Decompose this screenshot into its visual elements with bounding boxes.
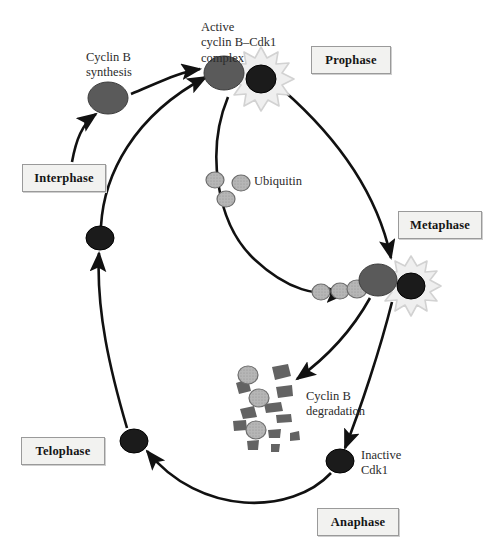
phase-box-metaphase[interactable]: Metaphase (398, 211, 482, 239)
arrow-inactive-cdk1-to-telophase (147, 451, 331, 503)
arrow-telophase-to-interphase (99, 253, 127, 428)
phase-box-telophase[interactable]: Telophase (21, 437, 105, 465)
diagram-canvas (0, 0, 488, 558)
label-cyclin-b-degradation: Cyclin B degradation (306, 389, 365, 420)
cdk1-molecule-interphase (86, 226, 114, 250)
phase-box-interphase[interactable]: Interphase (22, 164, 106, 192)
label-inactive-cdk1: Inactive Cdk1 (361, 448, 401, 479)
cdk1-molecule-inactive (326, 449, 354, 473)
ubiquitin-chain-group (312, 280, 367, 300)
arrow-interphase-to-synthesis (72, 114, 96, 162)
cell-cycle-diagram: Cyclin B synthesis Active cyclin B–Cdk1 … (0, 0, 488, 558)
cyclin-b-molecule-metaphase (359, 264, 397, 296)
label-active-complex: Active cyclin B–Cdk1 complex (201, 20, 276, 66)
phase-box-anaphase[interactable]: Anaphase (317, 508, 399, 536)
label-ubiquitin: Ubiquitin (254, 174, 302, 189)
ubiquitin-free-group (206, 172, 250, 207)
arrow-complex-to-degradation (297, 298, 370, 379)
arrow-cyclinb-to-complex (131, 69, 200, 94)
cyclin-b-molecule-free (88, 82, 128, 114)
cdk1-molecule-active (246, 65, 276, 93)
phase-box-prophase[interactable]: Prophase (311, 46, 391, 74)
arrow-ubiquitination-path (216, 97, 345, 294)
cdk1-molecule-metaphase (397, 273, 425, 299)
cdk1-molecule-telophase (120, 429, 148, 453)
label-cyclin-b-synthesis: Cyclin B synthesis (86, 50, 132, 81)
